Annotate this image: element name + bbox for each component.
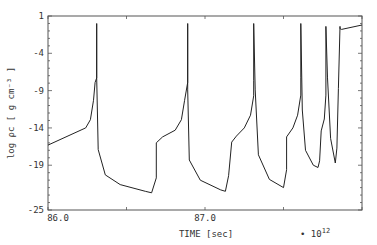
- plot-frame: [48, 16, 362, 210]
- x-axis-tick-labels: 86.087.0: [47, 213, 216, 223]
- y-tick-label: -9: [33, 86, 44, 96]
- y-tick-label: -19: [28, 160, 44, 170]
- x-axis-multiplier: • 1012: [300, 227, 330, 239]
- y-tick-label: 1: [39, 11, 44, 21]
- x-axis-ticks: [48, 16, 362, 210]
- chart-svg: 1-4-9-14-19-25 86.087.0 TIME [sec] • 101…: [0, 0, 377, 245]
- x-tick-label: 86.0: [47, 213, 69, 223]
- y-tick-label: -25: [28, 205, 44, 215]
- x-tick-label: 87.0: [194, 213, 216, 223]
- x-axis-label: TIME [sec]: [179, 229, 233, 239]
- y-tick-label: -14: [28, 123, 44, 133]
- y-axis-tick-labels: 1-4-9-14-19-25: [28, 11, 44, 215]
- y-axis-label: log ρc [ g cm⁻³ ]: [6, 67, 16, 159]
- y-tick-label: -4: [33, 48, 44, 58]
- density-curve: [48, 24, 362, 193]
- y-axis-ticks: [48, 16, 362, 210]
